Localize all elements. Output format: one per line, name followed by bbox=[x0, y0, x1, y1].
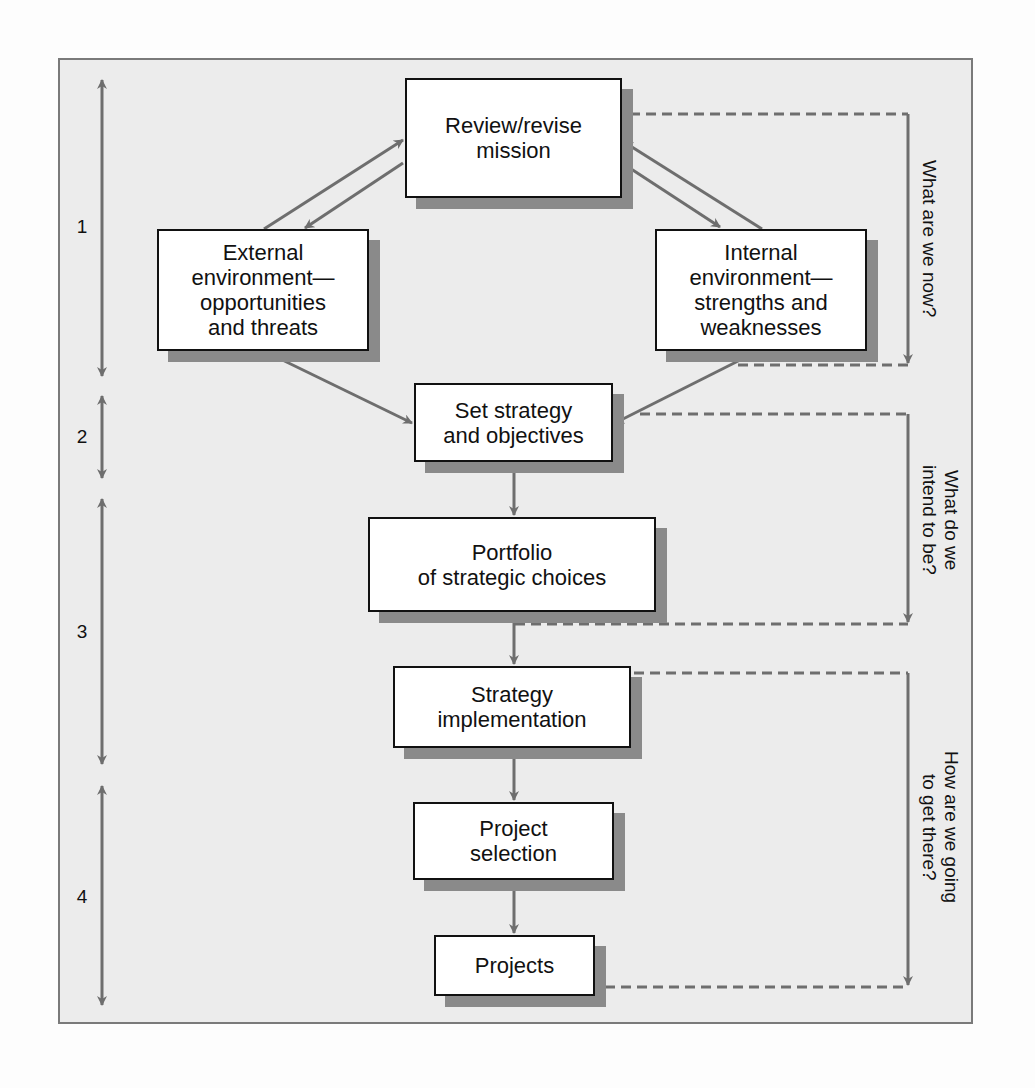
portfolio-box: Portfolio of strategic choices bbox=[368, 517, 656, 612]
projects-box: Projects bbox=[434, 935, 595, 996]
mission-box: Review/revise mission bbox=[405, 78, 622, 198]
phase-2-label: 2 bbox=[72, 426, 92, 448]
question-what-are-we-now: What are we now? bbox=[918, 150, 940, 328]
external-environment-box: External environment— opportunities and … bbox=[157, 229, 369, 351]
project-selection-box: Project selection bbox=[413, 802, 614, 880]
strategy-implementation-box: Strategy implementation bbox=[393, 666, 631, 748]
phase-4-label: 4 bbox=[72, 886, 92, 908]
question-how-are-we-going-to-get-there: How are we going to get there? bbox=[918, 742, 962, 912]
phase-3-label: 3 bbox=[72, 621, 92, 643]
internal-environment-box: Internal environment— strengths and weak… bbox=[655, 229, 867, 351]
set-strategy-box: Set strategy and objectives bbox=[414, 383, 613, 462]
phase-1-label: 1 bbox=[72, 216, 92, 238]
question-what-do-we-intend-to-be: What do we intend to be? bbox=[918, 452, 962, 588]
